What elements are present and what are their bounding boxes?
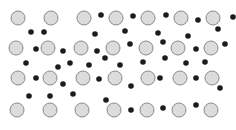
- large-particle-marker: [140, 103, 154, 117]
- small-particle-marker: [55, 64, 61, 70]
- small-particle-marker: [26, 93, 32, 99]
- small-particle-marker: [117, 62, 123, 68]
- large-particle-marker: [107, 103, 121, 117]
- large-particle-marker: [108, 71, 122, 85]
- lattice-diagram-figure: [0, 0, 236, 130]
- large-particle-marker: [10, 103, 24, 117]
- small-particle-marker: [128, 83, 134, 89]
- small-particle-marker: [162, 55, 168, 61]
- large-particle-marker: [44, 11, 58, 25]
- small-particle-marker: [60, 81, 66, 87]
- small-particle-marker: [47, 93, 53, 99]
- large-particle-marker: [173, 71, 187, 85]
- small-particle-marker: [185, 33, 191, 39]
- small-particle-marker: [23, 60, 29, 66]
- small-particle-marker: [130, 13, 136, 19]
- large-particle-marker: [204, 103, 218, 117]
- large-particle-marker: [41, 41, 55, 55]
- large-particle-marker: [74, 41, 88, 55]
- large-particle-marker: [77, 11, 91, 25]
- large-particle-marker: [206, 11, 220, 25]
- large-particle-marker: [75, 103, 89, 117]
- small-particle-marker: [98, 12, 104, 18]
- large-particle-marker: [174, 11, 188, 25]
- small-particle-marker: [127, 41, 133, 47]
- large-particle-marker: [141, 71, 155, 85]
- small-particle-marker: [122, 28, 128, 34]
- small-particle-marker: [202, 59, 208, 65]
- small-particle-marker: [160, 39, 166, 45]
- small-particle-marker: [60, 48, 66, 54]
- small-particle-marker: [102, 55, 108, 61]
- small-particle-marker: [195, 17, 201, 23]
- large-particle-marker: [205, 71, 219, 85]
- small-particle-marker: [230, 14, 236, 20]
- large-particle-marker: [171, 41, 185, 55]
- small-particle-marker: [160, 105, 166, 111]
- particle-scatter-canvas: [0, 0, 236, 130]
- large-particle-marker: [106, 41, 120, 55]
- small-particle-marker: [193, 46, 199, 52]
- large-particle-marker: [43, 103, 57, 117]
- large-particle-marker: [43, 71, 57, 85]
- small-particle-marker: [96, 76, 102, 82]
- small-particle-marker: [155, 30, 161, 36]
- small-particle-marker: [33, 46, 39, 52]
- small-particle-marker: [163, 12, 169, 18]
- small-particle-marker: [86, 62, 92, 68]
- large-particle-marker: [11, 11, 25, 25]
- small-particle-marker: [157, 75, 163, 81]
- small-particle-marker: [140, 59, 146, 65]
- large-particle-marker: [109, 11, 123, 25]
- large-particle-marker: [76, 71, 90, 85]
- small-particle-marker: [193, 102, 199, 108]
- small-particle-marker: [28, 29, 34, 35]
- small-particle-marker: [41, 29, 47, 35]
- small-particle-marker: [193, 75, 199, 81]
- small-particle-marker: [222, 41, 228, 47]
- large-particle-marker: [204, 41, 218, 55]
- small-particle-marker: [103, 97, 109, 103]
- small-particle-marker: [215, 26, 221, 32]
- large-particle-marker: [139, 41, 153, 55]
- small-particle-marker: [33, 75, 39, 81]
- small-particle-marker: [70, 91, 76, 97]
- small-particle-marker: [92, 31, 98, 37]
- large-particle-marker: [141, 11, 155, 25]
- small-particle-marker: [183, 60, 189, 66]
- small-particle-marker: [217, 85, 223, 91]
- large-particle-marker: [9, 41, 23, 55]
- small-particle-marker: [128, 107, 134, 113]
- large-particle-marker: [11, 71, 25, 85]
- large-particle-marker: [172, 103, 186, 117]
- small-particle-marker: [94, 48, 100, 54]
- small-particle-marker: [67, 60, 73, 66]
